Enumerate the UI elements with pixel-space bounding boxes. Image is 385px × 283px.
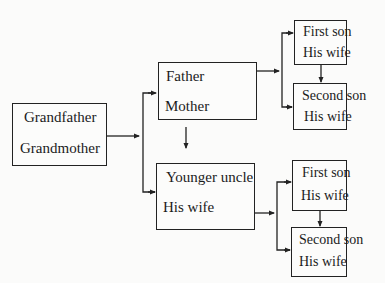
node-uncle-top-label: Younger uncle	[166, 169, 253, 186]
node-uncle-son2-top-label: Second son	[299, 232, 363, 248]
node-uncle-son2-bottom-label: His wife	[299, 254, 347, 270]
node-grandparents-bottom-label: Grandmother	[20, 140, 100, 157]
node-uncle-son1-top-label: First son	[302, 165, 351, 181]
node-uncle-bottom-label: His wife	[163, 199, 214, 216]
node-parents-son2-bottom-label: His wife	[304, 109, 352, 125]
node-grandparents-top-label: Grandfather	[24, 109, 96, 126]
node-parents-son2-top-label: Second son	[302, 88, 366, 104]
node-uncle-son1-bottom-label: His wife	[301, 188, 349, 204]
node-parents-bottom-label: Mother	[165, 98, 209, 115]
node-parents-top-label: Father	[166, 68, 204, 85]
node-parents-son1-top-label: First son	[303, 24, 352, 40]
node-parents-son1-bottom-label: His wife	[303, 45, 351, 61]
